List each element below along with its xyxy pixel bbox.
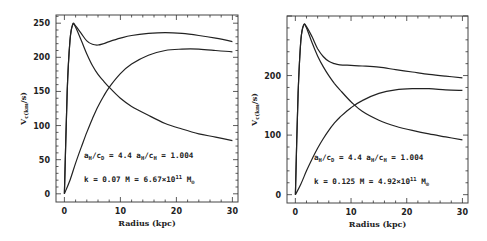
curve-total: [295, 24, 462, 195]
y-axis-label: Vc(km/s): [18, 92, 29, 126]
y-tick-label: 0: [44, 190, 50, 199]
parameter-annotation-mass: k = 0.07 M = 6.67×1011 M⊙: [84, 174, 195, 185]
x-axis-label: Radius (kpc): [118, 218, 176, 228]
rotation-curve-figure: 0102030050100150200250Radius (kpc)Vc(km/…: [0, 0, 487, 241]
y-tick-label: 0: [275, 191, 281, 200]
plot-frame: [56, 15, 238, 202]
y-tick-label: 100: [33, 122, 50, 131]
parameter-annotation-ratios: aH/cD = 4.4 aH/cH = 1.004: [84, 151, 194, 161]
parameter-annotation-ratios: aH/cD = 4.4 aH/cH = 1.004: [314, 153, 424, 163]
y-axis-label: Vc(km/s): [249, 93, 260, 127]
x-tick-label: 30: [457, 208, 469, 217]
y-tick-label: 250: [33, 19, 50, 28]
y-tick-label: 100: [264, 131, 281, 140]
y-tick-label: 50: [39, 156, 51, 165]
curve-halo: [64, 49, 232, 194]
x-tick-label: 0: [62, 207, 68, 216]
right-rotation-curve-panel: 01020300100200Radius (kpc)Vc(km/s)aH/cD …: [249, 16, 468, 229]
x-axis-label: Radius (kpc): [349, 219, 407, 229]
y-tick-label: 200: [33, 53, 50, 62]
curve-total: [64, 24, 232, 194]
x-tick-label: 30: [227, 207, 239, 216]
x-tick-label: 20: [401, 208, 413, 217]
plot-frame: [287, 16, 468, 203]
x-tick-label: 10: [345, 208, 357, 217]
x-tick-label: 0: [293, 208, 299, 217]
x-tick-label: 20: [171, 207, 183, 216]
left-rotation-curve-panel: 0102030050100150200250Radius (kpc)Vc(km/…: [18, 15, 238, 228]
curve-disk: [295, 24, 462, 195]
y-tick-label: 150: [33, 87, 50, 96]
curve-disk: [64, 23, 232, 194]
y-axis-label-group: Vc(km/s): [249, 93, 260, 127]
y-axis-label-group: Vc(km/s): [18, 92, 29, 126]
parameter-annotation-mass: k = 0.125 M = 4.92×1011 M⊙: [314, 176, 430, 187]
x-tick-label: 10: [115, 207, 127, 216]
y-tick-label: 200: [264, 72, 281, 81]
